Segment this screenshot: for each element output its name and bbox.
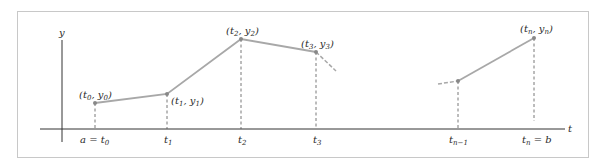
tick-a-t0: a = t0 (80, 134, 110, 147)
interpolant-right (458, 38, 534, 81)
interpolant-left-continuation (316, 52, 336, 71)
interpolant-left (95, 39, 316, 103)
tick-tn-b: tn = b (522, 134, 552, 147)
label-pn: (tn, yn) (520, 23, 553, 36)
tick-t3: t3 (313, 134, 322, 147)
label-p3: (t3, y3) (301, 38, 334, 51)
point-p2 (239, 37, 243, 41)
label-p0: (t0, y0) (79, 89, 112, 102)
tick-t1: t1 (164, 134, 173, 147)
point-p0 (93, 101, 97, 105)
interpolant-right-lead-in (438, 81, 458, 84)
point-pn (532, 36, 536, 40)
y-axis-label: y (58, 27, 65, 38)
piecewise-linear-diagram: t y (t0, y0) (t1, y1) (t2, y2) (t3, y3) … (0, 0, 600, 166)
t-axis-label: t (568, 123, 573, 134)
point-pn-1 (456, 79, 460, 83)
tick-tn-1: tn−1 (449, 134, 468, 147)
tick-t2: t2 (238, 134, 247, 147)
label-p2: (t2, y2) (226, 25, 259, 38)
point-p3 (314, 50, 318, 54)
point-p1 (165, 92, 169, 96)
label-p1: (t1, y1) (171, 95, 204, 108)
